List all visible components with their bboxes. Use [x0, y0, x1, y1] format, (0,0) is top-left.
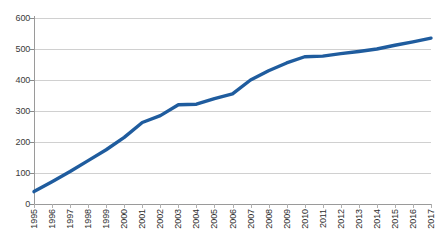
y-axis-tick-label: 100 — [16, 168, 30, 178]
x-axis-tick — [233, 204, 234, 208]
x-axis-tick — [341, 204, 342, 208]
y-axis-tick-label: 400 — [16, 75, 30, 85]
x-axis-tick — [269, 204, 270, 208]
x-axis-tick-label: 2015 — [390, 209, 400, 229]
x-axis-tick — [377, 204, 378, 208]
x-axis-tick — [106, 204, 107, 208]
x-axis-tick — [359, 204, 360, 208]
x-axis-tick — [323, 204, 324, 208]
x-axis-tick-label: 2011 — [318, 209, 328, 228]
x-axis-tick-label: 2013 — [354, 209, 364, 229]
x-axis-tick — [196, 204, 197, 208]
x-axis-tick-label: 2002 — [155, 209, 165, 229]
x-axis-tick-label: 2006 — [228, 209, 238, 229]
x-axis-tick-label: 2004 — [191, 209, 201, 229]
x-axis-tick-label: 1999 — [101, 209, 111, 229]
x-axis-tick-label: 1996 — [47, 209, 57, 229]
x-axis-tick-label: 2010 — [300, 209, 310, 229]
chart-title-cropped — [100, 0, 400, 8]
y-axis-tick-label: 500 — [16, 44, 30, 54]
x-axis-tick-label: 2003 — [173, 209, 183, 229]
x-axis-tick-label: 2001 — [137, 209, 147, 229]
data-series-line — [34, 38, 431, 191]
x-axis-tick — [88, 204, 89, 208]
x-axis-tick-label: 2005 — [209, 209, 219, 229]
x-axis-tick — [214, 204, 215, 208]
x-axis-tick — [34, 204, 35, 208]
y-axis-tick-label: 300 — [16, 106, 30, 116]
y-axis-tick-label: 200 — [16, 137, 30, 147]
y-axis-tick-label: 600 — [16, 13, 30, 23]
x-axis-tick-label: 2008 — [264, 209, 274, 229]
x-axis-tick — [395, 204, 396, 208]
x-axis-tick-label: 2014 — [372, 209, 382, 229]
y-axis-labels: 6005004003002001000 — [0, 0, 30, 246]
x-axis-tick — [305, 204, 306, 208]
x-axis-tick-label: 1998 — [83, 209, 93, 229]
x-axis-tick — [124, 204, 125, 208]
x-axis-tick — [160, 204, 161, 208]
x-axis-tick — [287, 204, 288, 208]
x-axis-tick-label: 2000 — [119, 209, 129, 229]
plot-area — [34, 18, 431, 204]
x-axis-tick — [142, 204, 143, 208]
x-axis-tick — [178, 204, 179, 208]
x-axis-tick-label: 1997 — [65, 209, 75, 229]
x-axis-tick-label: 2012 — [336, 209, 346, 229]
x-axis-tick — [52, 204, 53, 208]
x-axis-tick-label: 2007 — [246, 209, 256, 229]
x-axis-tick-label: 2017 — [426, 209, 436, 229]
x-axis-tick-label: 2009 — [282, 209, 292, 229]
x-axis-tick-label: 2016 — [408, 209, 418, 229]
x-axis-tick — [70, 204, 71, 208]
x-axis-tick — [251, 204, 252, 208]
x-axis-tick-label: 1995 — [29, 209, 39, 229]
x-axis-tick — [413, 204, 414, 208]
x-axis-tick — [431, 204, 432, 208]
